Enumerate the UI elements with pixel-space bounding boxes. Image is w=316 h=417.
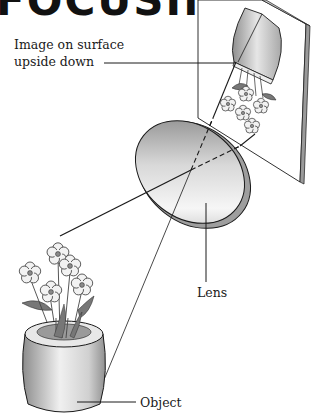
object-flowerpot bbox=[19, 243, 105, 412]
label-object: Object bbox=[140, 394, 182, 411]
label-image-on-surface: Image on surface bbox=[14, 36, 124, 53]
label-lens: Lens bbox=[197, 284, 227, 301]
label-upside-down: upside down bbox=[14, 53, 94, 70]
